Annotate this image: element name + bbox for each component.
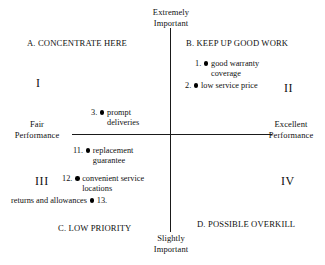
quadrant-numeral-iv: IV (281, 175, 295, 188)
data-point-label-line-2: coverage (211, 69, 259, 79)
axis-label-fair-performance: Fair Performance (6, 119, 68, 140)
axis-label-excellent-performance: Excellent Performance (258, 119, 324, 140)
data-point-marker-icon (75, 176, 80, 181)
axis-label-line-2: Performance (6, 130, 68, 141)
data-point-marker-icon (194, 83, 199, 88)
data-point-1: 1. good warranty coverage (195, 59, 259, 78)
quadrant-numeral-i: I (36, 77, 41, 90)
data-point-number: 1. (195, 59, 201, 69)
data-point-marker-icon (100, 110, 105, 115)
data-point-label-line-2: deliveries (107, 118, 139, 128)
data-point-label: returns and allowances (11, 196, 87, 206)
data-point-label-line-1: prompt (107, 108, 139, 118)
quadrant-numeral-ii: II (284, 82, 293, 95)
data-point-label-line-1: replacement (93, 146, 134, 156)
horizontal-axis-line (72, 134, 272, 135)
vertical-axis-line (170, 28, 171, 232)
quadrant-heading-a: A. CONCENTRATE HERE (27, 38, 127, 48)
data-point-3: 3. prompt deliveries (91, 108, 139, 127)
data-point-label-line-2: guarantee (93, 156, 134, 166)
data-point-marker-icon (204, 61, 209, 66)
axis-label-line-1: Fair (6, 119, 68, 130)
data-point-label: replacement guarantee (93, 146, 134, 165)
data-point-number: 11. (73, 146, 83, 156)
axis-label-slightly-important: Slightly Important (136, 233, 206, 254)
data-point-2: 2. low service price (185, 81, 258, 91)
data-point-11: 11. replacement guarantee (73, 146, 133, 165)
axis-label-line-2: Performance (258, 130, 324, 141)
data-point-12: 12. convenient service locations (62, 174, 144, 193)
axis-label-extremely-important: Extremely Important (136, 7, 206, 28)
data-point-number: 12. (62, 174, 72, 184)
data-point-label-line-1: convenient service (82, 174, 144, 184)
data-point-label: prompt deliveries (107, 108, 139, 127)
data-point-number: 3. (91, 108, 97, 118)
data-point-label-line-1: returns and allowances (11, 196, 87, 206)
axis-label-line-1: Excellent (258, 119, 324, 130)
axis-label-line-2: Important (136, 18, 206, 29)
importance-performance-matrix: Extremely Important Slightly Important F… (0, 0, 325, 265)
data-point-label-line-1: low service price (201, 81, 258, 91)
data-point-number: 2. (185, 81, 191, 91)
data-point-label-line-1: good warranty (211, 59, 259, 69)
quadrant-numeral-iii: III (35, 175, 49, 188)
quadrant-heading-b: B. KEEP UP GOOD WORK (186, 38, 288, 48)
axis-label-line-2: Important (136, 244, 206, 255)
axis-label-line-1: Extremely (136, 7, 206, 18)
data-point-marker-icon (90, 198, 95, 203)
quadrant-heading-d: D. POSSIBLE OVERKILL (197, 219, 295, 229)
data-point-number: 13. (97, 196, 107, 206)
data-point-label: convenient service locations (82, 174, 144, 193)
data-point-marker-icon (86, 148, 91, 153)
data-point-label: low service price (201, 81, 258, 91)
data-point-label: good warranty coverage (211, 59, 259, 78)
axis-label-line-1: Slightly (136, 233, 206, 244)
data-point-13: returns and allowances 13. (11, 196, 107, 206)
data-point-label-line-2: locations (82, 184, 144, 194)
quadrant-heading-c: C. LOW PRIORITY (58, 223, 131, 233)
